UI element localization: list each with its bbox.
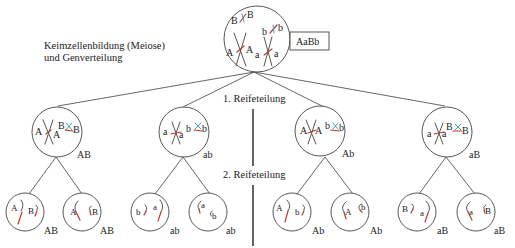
gamete-genotype-4: ab: [226, 225, 235, 236]
title-line-2: und Genverteilung: [44, 52, 123, 63]
allele-label: b: [262, 26, 267, 37]
allele-label: b: [202, 123, 207, 134]
parent-cell: B B b b A A a a: [224, 6, 290, 72]
allele-label: B: [73, 124, 80, 135]
allele-label: A: [35, 126, 43, 137]
allele-label: B: [485, 206, 491, 216]
gamete-cell-4: a b: [189, 193, 227, 231]
allele-label: a: [201, 200, 205, 210]
allele-label: a: [427, 128, 432, 139]
gamete-cell-7: B a: [398, 193, 436, 231]
meiosis1-cell-ab: a a b b: [159, 107, 209, 157]
allele-label: B: [58, 120, 65, 131]
stage-label-second-division: 2. Reifeteilung: [223, 169, 286, 180]
gamete-genotype-7: aB: [437, 225, 448, 236]
gamete-cell-8: a B: [457, 193, 495, 231]
allele-label: A: [246, 44, 254, 55]
allele-label: a: [255, 49, 260, 60]
gamete-cell-6: A b: [331, 193, 369, 231]
title-line-1: Keimzellenbildung (Meiose): [44, 40, 166, 52]
stage-label-first-division: 1. Reifeteilung: [223, 93, 286, 104]
allele-label: B: [28, 206, 34, 216]
allele-label: B: [92, 207, 98, 217]
gamete-genotype-6: Ab: [370, 225, 382, 236]
allele-label: A: [11, 203, 18, 213]
gamete-genotype-1: AB: [44, 225, 58, 236]
meiosis-diagram: Keimzellenbildung (Meiose) und Genvertei…: [0, 0, 515, 248]
allele-label: B: [231, 15, 238, 26]
allele-label: B: [402, 204, 408, 214]
meiosis1-genotype-ab: ab: [203, 149, 212, 160]
allele-label: B: [462, 125, 469, 136]
allele-label: b: [212, 211, 217, 221]
gamete-genotype-8: aB: [494, 225, 505, 236]
allele-label: A: [226, 47, 234, 58]
meiosis1-genotype-Ab: Ab: [342, 148, 354, 159]
gamete-cell-1: A B: [6, 193, 44, 231]
parent-genotype-label: AaBb: [296, 36, 319, 47]
allele-label: a: [179, 129, 184, 140]
allele-label: A: [70, 207, 77, 217]
allele-label: b: [136, 207, 141, 217]
gamete-genotype-3: ab: [170, 225, 179, 236]
meiosis1-genotype-aB: aB: [469, 149, 480, 160]
allele-label: B: [446, 121, 453, 132]
allele-label: b: [295, 207, 300, 217]
meiosis1-cell-AB: A A B B: [32, 107, 82, 157]
parent-genotype-box: AaBb: [290, 32, 329, 50]
gamete-cell-5: A b: [273, 193, 311, 231]
allele-label: a: [153, 202, 157, 212]
allele-label: A: [276, 203, 283, 213]
meiosis1-cell-Ab: A A b b: [295, 106, 345, 156]
allele-label: b: [186, 123, 191, 134]
allele-label: a: [469, 207, 473, 217]
allele-label: a: [163, 126, 168, 137]
meiosis1-genotype-AB: AB: [77, 149, 91, 160]
gamete-cell-2: A B: [63, 193, 101, 231]
allele-label: A: [315, 125, 323, 136]
allele-label: b: [278, 22, 283, 33]
allele-label: A: [300, 125, 308, 136]
gamete-genotype-5: Ab: [312, 225, 324, 236]
allele-label: A: [345, 207, 352, 217]
gamete-cell-3: b a: [131, 193, 169, 231]
allele-label: b: [339, 122, 344, 133]
allele-label: B: [247, 9, 254, 20]
allele-label: b: [361, 202, 366, 212]
meiosis1-cell-aB: a a B B: [422, 107, 472, 157]
allele-label: a: [420, 208, 424, 218]
allele-label: a: [274, 48, 279, 59]
gamete-genotype-2: AB: [100, 225, 114, 236]
allele-label: b: [325, 120, 330, 131]
